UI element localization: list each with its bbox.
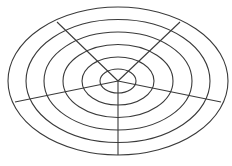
- figure-root: [0, 0, 232, 166]
- figure-background: [0, 0, 232, 166]
- concentric-ellipse-radial-diagram: [0, 0, 232, 166]
